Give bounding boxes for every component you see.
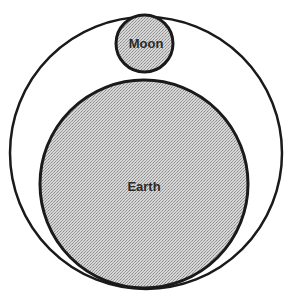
figure-caption bbox=[30, 300, 270, 306]
moon-label: Moon bbox=[129, 36, 164, 51]
earth-moon-diagram: Moon Earth bbox=[0, 0, 290, 306]
earth-label: Earth bbox=[127, 179, 160, 194]
